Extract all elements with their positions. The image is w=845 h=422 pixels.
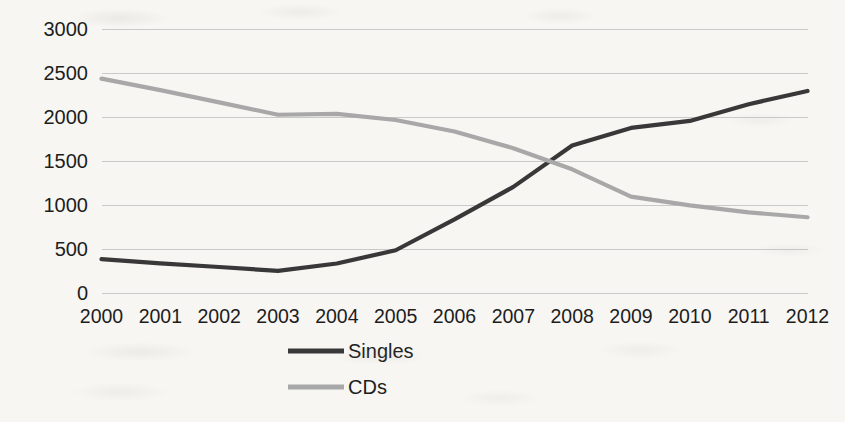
line-chart: 300025002000150010005000 200020012002200…: [0, 0, 845, 422]
y-axis-tick-label: 1500: [44, 150, 89, 172]
x-axis-tick-label: 2003: [256, 305, 299, 327]
x-axis-tick-label: 2004: [315, 305, 359, 327]
x-axis-tick-label: 2000: [80, 305, 124, 327]
legend-label-singles: Singles: [348, 340, 414, 362]
x-axis-tick-label: 2010: [668, 305, 712, 327]
x-axis-tick-label: 2001: [139, 305, 182, 327]
y-axis-tick-labels: 300025002000150010005000: [44, 18, 89, 304]
x-axis-tick-label: 2007: [492, 305, 535, 327]
data-series-group: [102, 79, 808, 271]
y-axis-tick-label: 2000: [44, 106, 89, 128]
y-axis-tick-label: 3000: [44, 18, 89, 40]
legend-label-cds: CDs: [348, 376, 387, 398]
y-axis-tick-label: 0: [77, 282, 88, 304]
x-axis-tick-label: 2009: [609, 305, 652, 327]
x-axis-tick-label: 2002: [197, 305, 240, 327]
plot-area-border: [102, 29, 808, 293]
x-axis-tick-label: 2008: [550, 305, 593, 327]
x-axis-tick-label: 2005: [374, 305, 418, 327]
x-axis-tick-label: 2012: [786, 305, 829, 327]
chart-canvas: 300025002000150010005000 200020012002200…: [0, 0, 845, 422]
x-axis-tick-label: 2011: [728, 305, 770, 327]
chart-legend: SinglesCDs: [288, 340, 414, 398]
x-axis-tick-labels: 2000200120022003200420052006200720082009…: [80, 305, 829, 327]
gridlines: [102, 30, 808, 294]
y-axis-tick-label: 500: [55, 238, 88, 260]
x-axis-tick-label: 2006: [433, 305, 476, 327]
y-axis-tick-label: 1000: [44, 194, 89, 216]
series-line-cds: [102, 79, 808, 218]
y-axis-tick-label: 2500: [44, 62, 89, 84]
